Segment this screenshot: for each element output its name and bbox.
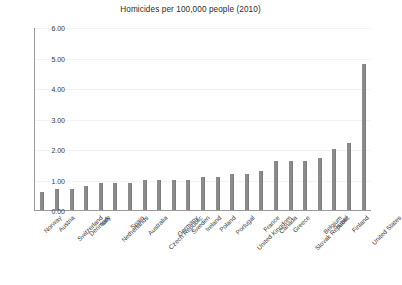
bar[interactable]	[303, 161, 307, 210]
x-label-slot: Israel	[328, 212, 343, 282]
x-label-slot: Ireland	[196, 212, 211, 282]
bar[interactable]	[186, 180, 190, 210]
bar-slot	[152, 28, 167, 210]
bar[interactable]	[318, 158, 322, 210]
bar[interactable]	[216, 177, 220, 210]
bar[interactable]	[332, 149, 336, 210]
bar-slot	[64, 28, 79, 210]
bar[interactable]	[289, 161, 293, 210]
bar-slot	[356, 28, 371, 210]
bar[interactable]	[245, 174, 249, 210]
chart-title: Homicides per 100,000 people (2010)	[0, 5, 381, 14]
bar-slot	[254, 28, 269, 210]
x-label-slot: United States	[357, 212, 372, 282]
bar-slot	[269, 28, 284, 210]
bar[interactable]	[259, 171, 263, 210]
y-axis-tick-label: 5.00	[33, 55, 65, 62]
x-label-slot: Finland	[343, 212, 358, 282]
y-axis-tick-label: 6.00	[33, 25, 65, 32]
bar-slot	[210, 28, 225, 210]
x-label-slot: Netherlands	[108, 212, 123, 282]
bar[interactable]	[99, 183, 103, 210]
x-axis-line	[34, 210, 371, 211]
bar-slot	[298, 28, 313, 210]
x-axis-tick-labels: NorwayAustriaSwitzerlandDenmarkItalyNeth…	[35, 212, 372, 282]
x-label-slot: Italy	[94, 212, 109, 282]
x-label-slot: Portugal	[226, 212, 241, 282]
bars-layer	[35, 28, 371, 210]
x-label-slot: Slovak Republic	[299, 212, 314, 282]
x-axis-tick-label: United States	[370, 214, 402, 246]
x-label-slot: France	[255, 212, 270, 282]
x-label-slot: Greece	[284, 212, 299, 282]
bar-slot	[342, 28, 357, 210]
bar-slot	[283, 28, 298, 210]
bar-slot	[313, 28, 328, 210]
bar-slot	[181, 28, 196, 210]
x-label-slot: Spain	[123, 212, 138, 282]
bar[interactable]	[128, 183, 132, 210]
x-label-slot: Germany	[167, 212, 182, 282]
x-label-slot: United Kingdom	[240, 212, 255, 282]
bar[interactable]	[70, 189, 74, 210]
x-label-slot: Switzerland	[64, 212, 79, 282]
x-label-slot: Australia	[138, 212, 153, 282]
x-label-slot: Canada	[270, 212, 285, 282]
bar[interactable]	[230, 174, 234, 210]
bar[interactable]	[113, 183, 117, 210]
bar[interactable]	[274, 161, 278, 210]
bar-slot	[327, 28, 342, 210]
x-label-slot: Belgium	[313, 212, 328, 282]
bar[interactable]	[143, 180, 147, 210]
x-label-slot: Denmark	[79, 212, 94, 282]
bar-slot	[79, 28, 94, 210]
bar-slot	[166, 28, 181, 210]
x-label-slot: Czech Republic	[152, 212, 167, 282]
bar-slot	[123, 28, 138, 210]
bar-slot	[225, 28, 240, 210]
y-axis-tick-label: 1.00	[33, 177, 65, 184]
bar[interactable]	[362, 64, 366, 210]
bar[interactable]	[172, 180, 176, 210]
bar[interactable]	[84, 186, 88, 210]
bar[interactable]	[201, 177, 205, 210]
bar-slot	[137, 28, 152, 210]
x-label-slot: Sweden	[182, 212, 197, 282]
bar-slot	[240, 28, 255, 210]
x-label-slot: Austria	[50, 212, 65, 282]
bar-slot	[196, 28, 211, 210]
bar[interactable]	[347, 143, 351, 210]
plot-area	[34, 28, 371, 211]
bar-slot	[93, 28, 108, 210]
bar-slot	[108, 28, 123, 210]
clipped-caption-text	[4, 276, 304, 284]
bar[interactable]	[157, 180, 161, 210]
x-label-slot: Norway	[35, 212, 50, 282]
y-axis-tick-label: 3.00	[33, 116, 65, 123]
x-label-slot: Poland	[211, 212, 226, 282]
y-axis-tick-label: 4.00	[33, 86, 65, 93]
y-axis-tick-label: 2.00	[33, 147, 65, 154]
